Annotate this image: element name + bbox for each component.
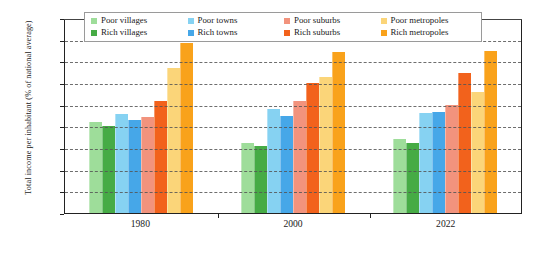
bar-poor-metropoles-2000 (319, 19, 332, 213)
bar-groups (65, 19, 521, 213)
gridline (65, 127, 521, 128)
bar-fill (484, 51, 497, 214)
plot-area (64, 19, 522, 214)
legend-label: Rich villages (101, 27, 147, 38)
bar-group-2000 (217, 19, 369, 213)
legend-swatch-icon (91, 18, 97, 24)
bar-rich-metropoles-2022 (484, 19, 497, 213)
legend-swatch-icon (381, 18, 387, 24)
bar-poor-metropoles-1980 (167, 19, 180, 213)
y-axis-title: Total income per inhabitant (% of nation… (24, 0, 33, 218)
bar-rich-villages-2022 (406, 19, 419, 213)
bar-rich-suburbs-2022 (458, 19, 471, 213)
bar-fill (254, 146, 267, 213)
bar-rich-suburbs-1980 (154, 19, 167, 213)
x-axis-labels: 198020002022 (64, 218, 522, 238)
bar-fill (167, 68, 180, 213)
bar-fill (280, 116, 293, 214)
y-axis-tick-mark (60, 149, 64, 150)
bar-fill (89, 122, 102, 213)
bar-rich-towns-1980 (128, 19, 141, 213)
bar-fill (115, 114, 128, 213)
bar-fill (306, 83, 319, 213)
bar-poor-villages-2000 (241, 19, 254, 213)
legend-label: Poor villages (101, 15, 147, 26)
bar-poor-metropoles-2022 (471, 19, 484, 213)
bar-fill (471, 92, 484, 213)
legend-item-rich-towns[interactable]: Rich towns (188, 27, 285, 38)
bar-chart: Total income per inhabitant (% of nation… (0, 0, 539, 253)
legend-label: Poor towns (198, 15, 238, 26)
bar-group-1980 (65, 19, 217, 213)
bar-rich-towns-2000 (280, 19, 293, 213)
legend-item-poor-suburbs[interactable]: Poor suburbs (284, 15, 381, 26)
bar-poor-villages-1980 (89, 19, 102, 213)
bar-rich-villages-1980 (102, 19, 115, 213)
legend-item-poor-towns[interactable]: Poor towns (188, 15, 285, 26)
bar-poor-towns-2022 (419, 19, 432, 213)
bar-fill (406, 143, 419, 213)
y-axis-tick-mark (60, 127, 64, 128)
bar-fill (393, 139, 406, 213)
bar-fill (241, 143, 254, 213)
y-axis-tick-mark (60, 62, 64, 63)
chart-legend: Poor villagesPoor townsPoor suburbsPoor … (84, 12, 482, 42)
legend-label: Rich metropoles (391, 27, 449, 38)
gridline (65, 84, 521, 85)
legend-item-rich-villages[interactable]: Rich villages (91, 27, 188, 38)
legend-item-rich-suburbs[interactable]: Rich suburbs (284, 27, 381, 38)
bar-poor-towns-2000 (267, 19, 280, 213)
bar-fill (445, 105, 458, 213)
y-axis-tick-mark (60, 214, 64, 215)
bar-poor-suburbs-2000 (293, 19, 306, 213)
legend-item-poor-metropoles[interactable]: Poor metropoles (381, 15, 478, 26)
legend-label: Rich towns (198, 27, 238, 38)
gridline (65, 106, 521, 107)
bar-rich-towns-2022 (432, 19, 445, 213)
legend-label: Poor metropoles (391, 15, 449, 26)
legend-swatch-icon (91, 30, 97, 36)
bar-rich-villages-2000 (254, 19, 267, 213)
gridline (65, 171, 521, 172)
bar-poor-suburbs-1980 (141, 19, 154, 213)
bar-fill (293, 101, 306, 213)
legend-swatch-icon (188, 18, 194, 24)
bar-poor-towns-1980 (115, 19, 128, 213)
bar-rich-metropoles-2000 (332, 19, 345, 213)
bar-fill (141, 117, 154, 213)
bar-rich-metropoles-1980 (180, 19, 193, 213)
legend-label: Poor suburbs (294, 15, 340, 26)
bar-poor-suburbs-2022 (445, 19, 458, 213)
legend-item-poor-villages[interactable]: Poor villages (91, 15, 188, 26)
legend-swatch-icon (284, 18, 290, 24)
legend-item-rich-metropoles[interactable]: Rich metropoles (381, 27, 478, 38)
x-axis-label-2022: 2022 (369, 218, 522, 238)
bar-rich-suburbs-2000 (306, 19, 319, 213)
legend-swatch-icon (188, 30, 194, 36)
y-axis-tick-mark (60, 106, 64, 107)
legend-swatch-icon (284, 30, 290, 36)
bar-fill (267, 109, 280, 213)
gridline (65, 62, 521, 63)
gridline (65, 192, 521, 193)
x-axis-label-1980: 1980 (64, 218, 217, 238)
legend-label: Rich suburbs (294, 27, 340, 38)
bar-fill (128, 120, 141, 213)
legend-swatch-icon (381, 30, 387, 36)
bar-fill (154, 101, 167, 213)
y-axis-tick-mark (60, 41, 64, 42)
bar-poor-villages-2022 (393, 19, 406, 213)
y-axis-tick-mark (60, 171, 64, 172)
x-axis-label-2000: 2000 (217, 218, 370, 238)
y-axis-tick-mark (60, 19, 64, 20)
gridline (65, 149, 521, 150)
y-axis-tick-mark (60, 192, 64, 193)
bar-fill (332, 52, 345, 213)
y-axis-tick-mark (60, 84, 64, 85)
bar-group-2022 (369, 19, 521, 213)
